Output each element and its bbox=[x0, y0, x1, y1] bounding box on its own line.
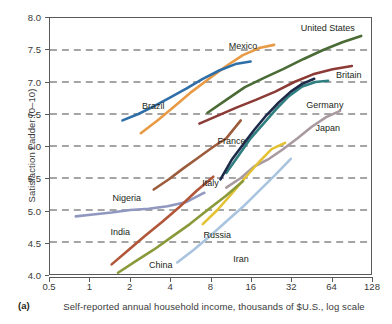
x-tick-mark bbox=[332, 277, 333, 282]
series-label-italy: Italy bbox=[202, 178, 219, 188]
x-tick-label: 64 bbox=[326, 281, 337, 292]
x-tick-label: 128 bbox=[364, 281, 380, 292]
series-label-japan: Japan bbox=[316, 123, 341, 133]
x-tick-label: 0.5 bbox=[42, 281, 55, 292]
series-label-china: China bbox=[149, 260, 173, 270]
series-label-india: India bbox=[111, 227, 131, 237]
series-label-mexico: Mexico bbox=[229, 41, 258, 51]
series-label-britain: Britain bbox=[336, 70, 362, 80]
y-tick-label: 4.0 bbox=[13, 270, 41, 281]
series-label-nigeria: Nigeria bbox=[112, 193, 141, 203]
y-tick-label: 5.5 bbox=[13, 173, 41, 184]
x-tick-label: 1 bbox=[87, 281, 92, 292]
x-tick-mark bbox=[211, 277, 212, 282]
series-line-india[interactable] bbox=[112, 177, 214, 265]
series-line-brazil[interactable] bbox=[123, 62, 251, 121]
y-tick-label: 6.5 bbox=[13, 108, 41, 119]
series-label-russia: Russia bbox=[204, 230, 232, 240]
x-tick-mark bbox=[49, 277, 50, 282]
series-label-iran: Iran bbox=[233, 254, 249, 264]
y-tick-label: 5.0 bbox=[13, 205, 41, 216]
x-tick-label: 4 bbox=[167, 281, 172, 292]
x-tick-label: 2 bbox=[127, 281, 132, 292]
y-tick-label: 7.0 bbox=[13, 76, 41, 87]
series-line-italy[interactable] bbox=[154, 120, 241, 189]
y-tick-label: 8.0 bbox=[13, 12, 41, 23]
x-tick-mark bbox=[251, 277, 252, 282]
series-label-united-states: United States bbox=[301, 23, 355, 33]
figure-panel-a: Satisfaction Ladder (0–10) Self-reported… bbox=[0, 0, 392, 324]
series-line-iran[interactable] bbox=[177, 159, 291, 263]
x-tick-mark bbox=[291, 277, 292, 282]
x-tick-label: 16 bbox=[246, 281, 257, 292]
series-label-germany: Germany bbox=[306, 100, 343, 110]
y-tick-mark bbox=[45, 275, 49, 276]
series-label-brazil: Brazil bbox=[142, 101, 165, 111]
x-tick-label: 8 bbox=[208, 281, 213, 292]
x-tick-label: 32 bbox=[286, 281, 297, 292]
series-label-france: France bbox=[218, 136, 246, 146]
x-tick-mark bbox=[130, 277, 131, 282]
y-tick-label: 6.0 bbox=[13, 141, 41, 152]
x-tick-mark bbox=[372, 277, 373, 282]
y-tick-label: 7.5 bbox=[13, 44, 41, 55]
y-tick-label: 4.5 bbox=[13, 237, 41, 248]
x-tick-mark bbox=[170, 277, 171, 282]
x-tick-mark bbox=[89, 277, 90, 282]
